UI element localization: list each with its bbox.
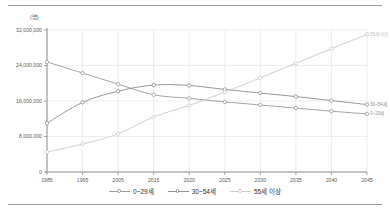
data-point-marker: [259, 76, 262, 79]
legend-dot-icon: [117, 189, 121, 193]
gridlines: [47, 30, 367, 172]
x-tick-label: 2020: [183, 177, 195, 183]
label-55-plus: 55세 이상: [370, 31, 389, 38]
data-point-marker: [45, 121, 48, 124]
y-tick-label: 24,000,000: [16, 62, 42, 68]
data-point-marker: [188, 84, 191, 87]
data-point-marker: [152, 93, 155, 96]
x-tick-label: 1985: [41, 177, 53, 183]
data-point-marker: [152, 115, 155, 118]
data-point-marker: [81, 142, 84, 145]
series-1: [45, 60, 368, 115]
series-line: [47, 34, 367, 152]
y-tick-label: 16,000,000: [16, 98, 42, 104]
data-point-marker: [116, 90, 119, 93]
y-tick-label: 32,000,000: [16, 27, 42, 33]
series-line: [47, 62, 367, 114]
x-tick-label: 2015: [148, 177, 160, 183]
x-tick-label: 2040: [326, 177, 338, 183]
legend-marker-icon: [168, 188, 189, 195]
x-axis-ticks: 1985199520052015202020252030203520402045: [41, 172, 373, 183]
legend-item-1[interactable]: 0~29세: [109, 186, 154, 196]
legend-item-3[interactable]: 55세 이상: [230, 186, 281, 196]
data-point-marker: [294, 106, 297, 109]
label-0-29: 0~29세: [370, 110, 384, 117]
data-point-marker: [365, 103, 368, 106]
data-point-marker: [330, 110, 333, 113]
data-point-marker: [152, 83, 155, 86]
data-point-marker: [223, 100, 226, 103]
legend-label: 0~29세: [133, 186, 154, 196]
data-point-marker: [81, 71, 84, 74]
x-tick-label: 2035: [290, 177, 302, 183]
data-point-marker: [223, 90, 226, 93]
series-2: [45, 83, 368, 125]
data-point-marker: [45, 60, 48, 63]
data-point-marker: [259, 103, 262, 106]
data-point-marker: [330, 99, 333, 102]
data-point-marker: [294, 95, 297, 98]
plot-area: 08,000,00016,000,00024,000,00032,000,000…: [0, 0, 390, 211]
legend-dot-icon: [176, 189, 180, 193]
label-30-54: 30~54세: [370, 101, 387, 108]
data-point-marker: [45, 150, 48, 153]
legend-item-2[interactable]: 30~54세: [168, 186, 216, 196]
legend-marker-icon: [230, 188, 251, 195]
x-tick-label: 2025: [219, 177, 231, 183]
line-chart: 08,000,00016,000,00024,000,00032,000,000…: [0, 0, 390, 211]
x-tick-label: 2045: [361, 177, 373, 183]
data-point-marker: [116, 82, 119, 85]
data-point-marker: [116, 132, 119, 135]
series-line: [47, 85, 367, 124]
series-3: [45, 33, 368, 154]
chart-page: (명) 08,000,00016,000,00024,000,00032,000…: [0, 0, 390, 211]
legend-dot-icon: [238, 189, 242, 193]
x-tick-label: 2005: [112, 177, 124, 183]
data-point-marker: [188, 104, 191, 107]
data-point-marker: [330, 47, 333, 50]
chart-legend: 0~29세30~54세55세 이상: [0, 186, 390, 196]
y-axis-ticks: 08,000,00016,000,00024,000,00032,000,000: [16, 27, 47, 175]
data-point-marker: [365, 33, 368, 36]
legend-label: 55세 이상: [254, 186, 281, 196]
data-series: [45, 33, 368, 154]
series-annotations: 55세 이상30~54세0~29세: [370, 31, 389, 117]
x-tick-label: 1995: [77, 177, 89, 183]
x-tick-label: 2030: [255, 177, 267, 183]
y-tick-label: 0: [39, 169, 42, 175]
data-point-marker: [81, 101, 84, 104]
legend-marker-icon: [109, 188, 130, 195]
y-tick-label: 8,000,000: [19, 133, 42, 139]
data-point-marker: [294, 62, 297, 65]
data-point-marker: [188, 97, 191, 100]
data-point-marker: [259, 91, 262, 94]
data-point-marker: [365, 112, 368, 115]
legend-label: 30~54세: [192, 186, 216, 196]
